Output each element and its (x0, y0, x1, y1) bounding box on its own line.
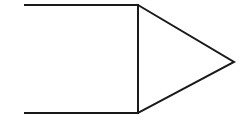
geometric-figure-canvas: Geometric figure: square with attached t… (0, 0, 242, 121)
canvas-background (0, 0, 242, 121)
